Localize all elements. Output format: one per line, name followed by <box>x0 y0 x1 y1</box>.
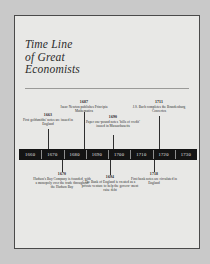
connector-line-below-3 <box>154 160 155 172</box>
document-page: Time Line of Great Economists 1663 First… <box>14 15 200 249</box>
page-title: Time Line of Great Economists <box>25 38 145 76</box>
connector-line-above-4 <box>159 116 160 149</box>
title-line-2: of Great <box>25 51 145 64</box>
timeline-axis: 1660 1670 1680 1690 1700 1710 1720 1730 <box>19 149 197 160</box>
timeline-event-below-3: 1718 First bank notes are circulated in … <box>125 172 183 185</box>
axis-tick-label: 1700 <box>114 152 124 157</box>
axis-tick-label: 1710 <box>136 152 146 157</box>
event-text: First bank notes are circulated in Engla… <box>125 177 183 185</box>
event-text: Paper one-pound notes ‘bills of credit’ … <box>84 120 142 128</box>
connector-line-below-2 <box>110 160 111 175</box>
axis-tick-0: 1660 <box>19 149 41 160</box>
event-text: J.S. Bach completes the Brandenburg Conc… <box>130 105 188 113</box>
axis-tick-label: 1730 <box>181 152 191 157</box>
title-divider <box>25 88 189 89</box>
axis-tick-label: 1670 <box>47 152 57 157</box>
event-text: First goldsmiths' notes are issued in En… <box>19 118 77 126</box>
axis-tick-4: 1700 <box>108 149 130 160</box>
axis-tick-3: 1690 <box>86 149 108 160</box>
axis-tick-7: 1730 <box>175 149 197 160</box>
axis-tick-label: 1690 <box>92 152 102 157</box>
timeline-event-above-2: 1687 Isaac Newton publishes Principia Ma… <box>55 100 113 113</box>
axis-tick-1: 1670 <box>41 149 63 160</box>
axis-tick-label: 1660 <box>25 152 35 157</box>
connector-line-above-3 <box>113 135 114 149</box>
timeline-event-above-4: 1711 J.S. Bach completes the Brandenburg… <box>130 100 188 113</box>
axis-tick-2: 1680 <box>64 149 86 160</box>
title-line-3: Economists <box>25 63 145 76</box>
axis-tick-6: 1720 <box>153 149 175 160</box>
timeline-event-above-3: 1690 Paper one-pound notes ‘bills of cre… <box>84 115 142 128</box>
timeline-event-above-1: 1663 First goldsmiths' notes are issued … <box>19 113 77 126</box>
axis-tick-5: 1710 <box>130 149 152 160</box>
connector-line-above-1 <box>48 129 49 149</box>
axis-tick-label: 1680 <box>69 152 79 157</box>
connector-line-below-1 <box>62 160 63 172</box>
axis-tick-label: 1720 <box>158 152 168 157</box>
title-line-1: Time Line <box>25 38 145 51</box>
